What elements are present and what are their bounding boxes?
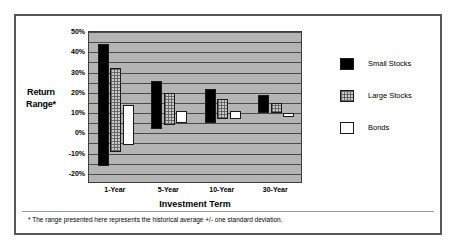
y-axis-tick-label: 30% — [57, 68, 85, 75]
gridline — [89, 52, 301, 53]
legend-item-bonds[interactable]: Bonds — [340, 122, 436, 135]
y-axis-tick-label: 20% — [57, 88, 85, 95]
y-axis-tick-label: -20% — [57, 169, 85, 176]
x-axis-tick-label: 5-Year — [158, 186, 179, 193]
legend-item-small-stocks[interactable]: Small Stocks — [340, 58, 436, 71]
y-axis-tick-label: 10% — [57, 109, 85, 116]
legend-swatch-icon — [340, 122, 354, 134]
plot-area — [88, 31, 302, 183]
bar-30-year-bonds — [283, 113, 294, 117]
y-axis-tick-label: 40% — [57, 48, 85, 55]
bar-30-year-large-stocks — [271, 103, 282, 113]
bar-1-year-bonds — [123, 105, 134, 146]
gridline — [89, 42, 301, 43]
bar-10-year-bonds — [230, 111, 241, 119]
bar-30-year-small-stocks — [258, 95, 269, 113]
gridline — [89, 62, 301, 63]
legend-swatch-icon — [340, 58, 354, 70]
legend-swatch-icon — [340, 90, 354, 102]
gridline — [89, 32, 301, 33]
y-axis-tick-label: 50% — [57, 28, 85, 35]
legend-label: Large Stocks — [368, 91, 412, 100]
footnote-divider — [22, 211, 434, 212]
legend-label: Small Stocks — [368, 59, 411, 68]
bar-1-year-large-stocks — [110, 68, 121, 151]
legend-label: Bonds — [368, 123, 389, 132]
bar-5-year-small-stocks — [151, 81, 162, 130]
bar-10-year-large-stocks — [217, 99, 228, 119]
bar-5-year-bonds — [176, 111, 187, 123]
y-axis-tick-label: 0% — [57, 129, 85, 136]
gridline — [89, 164, 301, 165]
x-axis-tick-label: 1-Year — [104, 186, 125, 193]
chart-figure: ReturnRange* 50%40%30%20%10%0%-10%-20% 1… — [0, 0, 458, 251]
bar-5-year-large-stocks — [164, 93, 175, 125]
x-axis-title: Investment Term — [88, 199, 302, 209]
gridline — [89, 174, 301, 175]
y-axis-tick-labels: 50%40%30%20%10%0%-10%-20% — [57, 0, 85, 251]
x-axis-tick-label: 10-Year — [209, 186, 234, 193]
chart-legend: Small StocksLarge StocksBonds — [340, 58, 436, 154]
gridline — [89, 154, 301, 155]
y-axis-tick-label: -10% — [57, 149, 85, 156]
chart-footnote: * The range presented here represents th… — [28, 216, 428, 223]
x-axis-tick-labels: 1-Year5-Year10-Year30-Year — [88, 186, 302, 198]
bar-10-year-small-stocks — [205, 89, 216, 123]
bar-1-year-small-stocks — [98, 44, 109, 166]
legend-item-large-stocks[interactable]: Large Stocks — [340, 90, 436, 103]
x-axis-tick-label: 30-Year — [263, 186, 288, 193]
